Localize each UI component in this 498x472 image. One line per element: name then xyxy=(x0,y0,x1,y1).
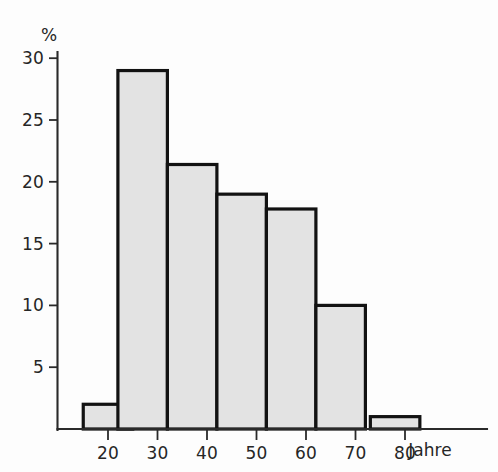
bar-30-40 xyxy=(167,164,217,429)
y-axis-title: % xyxy=(41,25,57,45)
x-tick-label-60: 60 xyxy=(295,443,317,463)
x-tick-label-70: 70 xyxy=(344,443,366,463)
y-axis-ticks: 51015202530 xyxy=(22,48,58,377)
y-tick-label-5: 5 xyxy=(33,357,44,377)
bar-50-60 xyxy=(266,209,316,429)
y-tick-label-30: 30 xyxy=(22,48,44,68)
x-tick-label-20: 20 xyxy=(97,443,119,463)
y-tick-label-25: 25 xyxy=(22,110,44,130)
y-tick-label-10: 10 xyxy=(22,295,44,315)
y-tick-label-15: 15 xyxy=(22,234,44,254)
bar-60-70 xyxy=(316,305,366,429)
bar-20-30 xyxy=(118,71,167,429)
x-tick-label-50: 50 xyxy=(245,443,267,463)
x-axis-title: Jahre xyxy=(407,440,451,460)
bars-group xyxy=(83,71,420,429)
bar-70-80 xyxy=(370,417,420,429)
x-tick-label-30: 30 xyxy=(146,443,168,463)
histogram-chart: 51015202530 20304050607080 % Jahre xyxy=(0,0,498,472)
chart-canvas: 51015202530 20304050607080 % Jahre xyxy=(0,0,498,472)
y-tick-label-20: 20 xyxy=(22,172,44,192)
x-tick-label-40: 40 xyxy=(196,443,218,463)
bar-40-50 xyxy=(217,194,267,429)
x-axis-ticks: 20304050607080 xyxy=(97,429,416,463)
